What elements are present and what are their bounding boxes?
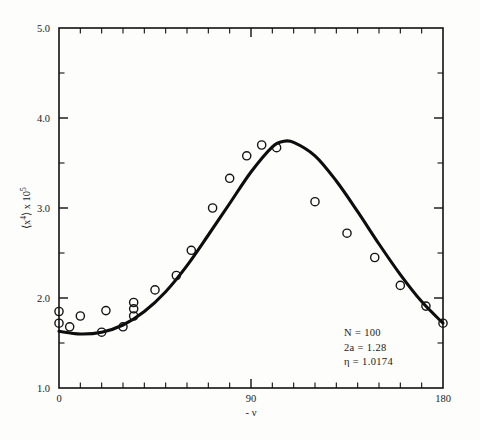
x-tick-label-0: 0	[56, 393, 61, 404]
x-tick-label-90: 90	[246, 393, 257, 404]
data-point	[151, 286, 159, 294]
data-point	[343, 229, 351, 237]
x-axis-label: - ν	[246, 407, 257, 418]
plot-canvas: 090180 1.02.03.04.05.0 - ν ⟨x4⟩ x 105 N …	[0, 0, 480, 440]
parameter-annotation-block: N = 1002a = 1.28η = 1.0174	[344, 327, 393, 367]
y-axis-label-mid: ⟩ x 10	[21, 191, 32, 216]
y-axis-ticks-left	[59, 73, 68, 343]
y-tick-label-5.0: 5.0	[37, 23, 50, 34]
data-point	[187, 246, 195, 254]
data-point	[226, 174, 234, 182]
y-axis-ticks-right	[434, 73, 443, 343]
data-point	[396, 281, 404, 289]
y-axis-label-power: 5	[19, 187, 28, 191]
x-axis-ticks-top	[80, 28, 421, 37]
data-point	[76, 312, 84, 320]
y-axis-label-group: ⟨x4⟩ x 105	[19, 187, 32, 229]
y-tick-label-4.0: 4.0	[37, 113, 50, 124]
annotation-line-3: η = 1.0174	[344, 356, 393, 367]
data-point	[209, 204, 217, 212]
annotation-line-1: N = 100	[344, 327, 381, 338]
theoretical-curve	[59, 141, 443, 334]
y-axis-label: ⟨x4⟩ x 105	[19, 187, 32, 229]
y-tick-label-3.0: 3.0	[37, 203, 50, 214]
annotation-line-2: 2a = 1.28	[344, 342, 387, 353]
y-axis-tick-labels: 1.02.03.04.05.0	[37, 23, 50, 394]
figure-container: 090180 1.02.03.04.05.0 - ν ⟨x4⟩ x 105 N …	[0, 0, 480, 440]
plot-frame	[59, 28, 443, 388]
data-point	[102, 307, 110, 315]
x-axis-ticks-bottom	[80, 379, 421, 388]
y-tick-label-2.0: 2.0	[37, 293, 50, 304]
x-axis-tick-labels: 090180	[56, 393, 451, 404]
data-point	[258, 141, 266, 149]
data-point	[371, 253, 379, 261]
x-tick-label-180: 180	[435, 393, 451, 404]
y-tick-label-1.0: 1.0	[37, 383, 50, 394]
data-point	[243, 152, 251, 160]
data-point	[311, 198, 319, 206]
data-point	[66, 323, 74, 331]
